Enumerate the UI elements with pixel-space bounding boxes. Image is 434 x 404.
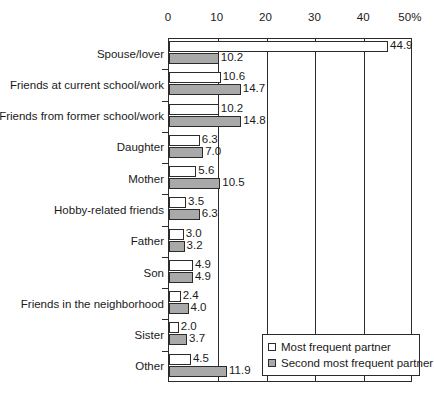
- bar-value-label: 11.9: [229, 365, 251, 376]
- category-label: Father: [131, 235, 164, 247]
- legend-label-most-frequent: Most frequent partner: [281, 341, 391, 353]
- bar-value-label: 4.9: [195, 271, 211, 282]
- category-label: Friends in the neighborhood: [21, 298, 164, 310]
- plot-area: 44.910.210.614.710.214.86.37.05.610.53.5…: [168, 38, 412, 382]
- bar-value-label: 10.2: [221, 103, 243, 114]
- bar-value-label: 3.7: [189, 333, 205, 344]
- category-label: Son: [144, 267, 164, 279]
- bar-second-most-frequent[interactable]: [169, 116, 241, 127]
- x-tick-label-30: 30: [308, 11, 321, 23]
- bar-value-label: 3.2: [187, 240, 203, 251]
- bar-most-frequent[interactable]: [169, 229, 184, 240]
- bar-value-label: 10.2: [221, 52, 243, 63]
- bar-most-frequent[interactable]: [169, 354, 191, 365]
- x-tick-label-10: 10: [210, 11, 223, 23]
- bar-value-label: 14.8: [243, 115, 265, 126]
- bar-value-label: 3.5: [188, 196, 204, 207]
- bar-second-most-frequent[interactable]: [169, 53, 219, 64]
- bar-value-label: 4.0: [191, 302, 207, 313]
- bar-value-label: 5.6: [198, 165, 214, 176]
- bar-value-label: 14.7: [243, 83, 265, 94]
- bar-group: 10.614.7: [169, 70, 411, 101]
- x-tick-label-0: 0: [165, 11, 172, 23]
- bar-group: 2.44.0: [169, 289, 411, 320]
- bar-value-label: 10.6: [223, 71, 245, 82]
- bar-group: 3.03.2: [169, 227, 411, 258]
- bar-value-label: 2.0: [181, 321, 197, 332]
- bar-group: 44.910.2: [169, 39, 411, 70]
- x-tick-label-50: 50%: [398, 11, 421, 23]
- category-label: Mother: [128, 173, 164, 185]
- category-label: Spouse/lover: [97, 48, 164, 60]
- bar-value-label: 3.0: [186, 228, 202, 239]
- bar-value-label: 10.5: [222, 177, 244, 188]
- legend-swatch-icon-most-frequent: [268, 343, 276, 351]
- category-label: Friends at current school/work: [10, 79, 164, 91]
- bar-second-most-frequent[interactable]: [169, 366, 227, 377]
- bar-second-most-frequent[interactable]: [169, 209, 200, 220]
- bar-value-label: 6.3: [202, 134, 218, 145]
- x-tick-label-40: 40: [357, 11, 370, 23]
- bar-most-frequent[interactable]: [169, 322, 179, 333]
- bar-second-most-frequent[interactable]: [169, 303, 189, 314]
- bar-group: 3.56.3: [169, 195, 411, 226]
- legend-item-most-frequent: Most frequent partner: [268, 339, 414, 355]
- bar-most-frequent[interactable]: [169, 197, 186, 208]
- bar-most-frequent[interactable]: [169, 41, 388, 52]
- category-label: Friends from former school/work: [0, 110, 164, 122]
- bar-second-most-frequent[interactable]: [169, 272, 193, 283]
- bar-most-frequent[interactable]: [169, 72, 221, 83]
- category-label: Sister: [135, 329, 164, 341]
- bar-most-frequent[interactable]: [169, 104, 219, 115]
- bar-group: 6.37.0: [169, 133, 411, 164]
- category-label: Other: [135, 360, 164, 372]
- bar-value-label: 6.3: [202, 208, 218, 219]
- bar-value-label: 44.9: [390, 40, 412, 51]
- x-tick-label-20: 20: [259, 11, 272, 23]
- legend-swatch-icon-second-most-frequent: [268, 359, 276, 367]
- category-label: Hobby-related friends: [54, 204, 164, 216]
- bar-group: 5.610.5: [169, 164, 411, 195]
- bar-group: 4.94.9: [169, 258, 411, 289]
- bar-second-most-frequent[interactable]: [169, 84, 241, 95]
- bar-value-label: 4.5: [193, 353, 209, 364]
- chart-figure: 0 10 20 30 40 50% Spouse/loverFriends at…: [0, 0, 434, 404]
- bar-most-frequent[interactable]: [169, 135, 200, 146]
- bar-most-frequent[interactable]: [169, 291, 181, 302]
- legend-label-second-most-frequent: Second most frequent partner: [281, 357, 433, 369]
- bar-value-label: 4.9: [195, 259, 211, 270]
- bar-value-label: 2.4: [183, 290, 199, 301]
- chart-legend: Most frequent partner Second most freque…: [262, 334, 420, 376]
- bar-second-most-frequent[interactable]: [169, 147, 203, 158]
- bar-second-most-frequent[interactable]: [169, 334, 187, 345]
- bar-group: 10.214.8: [169, 102, 411, 133]
- category-label: Daughter: [117, 141, 164, 153]
- bar-value-label: 7.0: [205, 146, 221, 157]
- bar-second-most-frequent[interactable]: [169, 241, 185, 252]
- bar-most-frequent[interactable]: [169, 166, 196, 177]
- legend-item-second-most-frequent: Second most frequent partner: [268, 355, 414, 371]
- bar-most-frequent[interactable]: [169, 260, 193, 271]
- bar-second-most-frequent[interactable]: [169, 178, 220, 189]
